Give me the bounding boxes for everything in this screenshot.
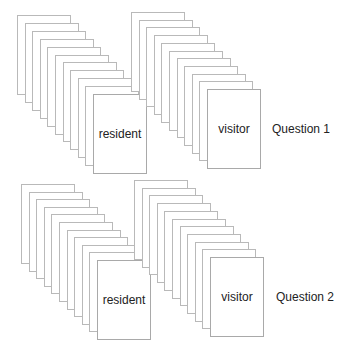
card-label: visitor xyxy=(218,122,249,136)
question-label: Question 1 xyxy=(272,122,330,136)
card-label: visitor xyxy=(221,290,252,304)
front-card-visitor: visitor xyxy=(207,89,261,169)
card-label: resident xyxy=(99,127,142,141)
front-card-visitor: visitor xyxy=(210,257,264,337)
front-card-resident: resident xyxy=(97,260,151,340)
front-card-resident: resident xyxy=(93,94,147,174)
question-label: Question 2 xyxy=(276,290,334,304)
card-label: resident xyxy=(103,293,146,307)
